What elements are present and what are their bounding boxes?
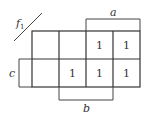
- cell-r0-c3: 1: [123, 39, 130, 52]
- bracket-a: [86, 19, 140, 31]
- cell-r1-c3: 1: [123, 67, 130, 80]
- function-label: f1: [15, 17, 25, 31]
- cell-r1-c2: 1: [96, 67, 103, 80]
- bracket-b: [59, 87, 113, 100]
- karnaugh-map: f1 a c b 1 1 1 1 1: [0, 0, 149, 119]
- bracket-c: [19, 59, 32, 87]
- label-c: c: [9, 67, 15, 80]
- label-a: a: [110, 6, 117, 19]
- cell-r0-c2: 1: [96, 39, 103, 52]
- cell-r1-c1: 1: [69, 67, 76, 80]
- label-b: b: [83, 102, 90, 115]
